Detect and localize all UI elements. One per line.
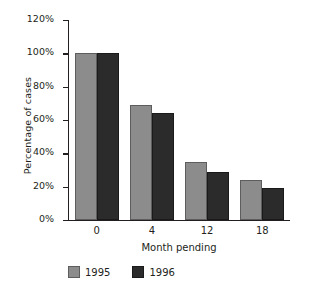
y-tick-20: 20% [63, 187, 68, 188]
x-tick-label-0: 0 [93, 225, 99, 236]
legend-swatch-1995 [68, 266, 80, 278]
bar-1996-month-4 [152, 113, 174, 220]
bar-1996-month-0 [97, 53, 119, 220]
plot-area: 0%20%40%60%80%100%120% 041218 [68, 20, 290, 220]
bar-1995-month-18 [240, 180, 262, 220]
y-tick-label: 40% [33, 146, 54, 157]
bar-1995-month-0 [75, 53, 97, 220]
y-axis-title: Percentage of cases [22, 36, 33, 216]
legend-label: 1996 [149, 267, 174, 278]
x-tick-label-12: 12 [201, 225, 214, 236]
legend-item-1996: 1996 [132, 266, 174, 278]
y-tick-60: 60% [63, 120, 68, 121]
y-tick-0: 0% [63, 220, 68, 221]
bar-1995-month-4 [130, 105, 152, 220]
x-axis-line [68, 220, 290, 221]
y-tick-120: 120% [63, 20, 68, 21]
y-tick-label: 120% [27, 13, 54, 24]
chart-legend: 19951996 [68, 266, 290, 278]
y-tick-label: 80% [33, 80, 54, 91]
y-tick-40: 40% [63, 153, 68, 154]
y-tick-80: 80% [63, 87, 68, 88]
y-tick-label: 20% [33, 180, 54, 191]
y-tick-label: 60% [33, 113, 54, 124]
bar-1995-month-12 [185, 162, 207, 220]
y-tick-label: 100% [27, 46, 54, 57]
bar-1996-month-18 [262, 188, 284, 220]
bar-1996-month-12 [207, 172, 229, 220]
y-tick-100: 100% [63, 53, 68, 54]
x-tick-label-18: 18 [256, 225, 269, 236]
legend-swatch-1996 [132, 266, 144, 278]
legend-item-1995: 1995 [68, 266, 110, 278]
bar-chart-figure: Percentage of cases 0%20%40%60%80%100%12… [0, 0, 315, 298]
x-tick-label-4: 4 [149, 225, 155, 236]
x-axis-title: Month pending [68, 242, 290, 253]
bars-layer [69, 20, 290, 220]
y-tick-label: 0% [39, 213, 54, 224]
legend-label: 1995 [85, 267, 110, 278]
